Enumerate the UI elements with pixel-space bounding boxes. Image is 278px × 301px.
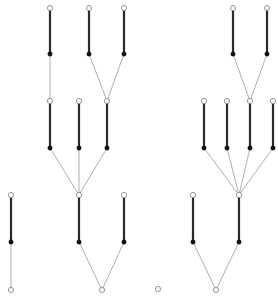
filled-node-rf1 [191,240,195,244]
open-node-c3 [104,98,109,103]
open-node-iso [155,286,160,291]
open-node-rc2 [224,98,229,103]
filled-node-f3 [122,240,126,244]
open-node-ra1 [230,5,235,10]
open-node-a3 [121,5,126,10]
thin-edge-b3-c3 [107,54,124,101]
open-node-re2 [236,192,241,197]
open-node-e2 [76,192,81,197]
open-node-rc1 [201,98,206,103]
thin-edge-rd1-re2 [204,148,239,195]
open-node-re1 [190,192,195,197]
open-node-rc4 [270,98,275,103]
thin-edge-rb2-rc3 [250,54,267,101]
open-node-a2 [86,5,91,10]
thin-edge-d1-e2 [50,148,79,195]
filled-node-d3 [105,146,109,150]
filled-node-b2 [87,52,91,56]
thin-edge-b2-c3 [89,54,107,101]
thin-edge-rf2-rg1 [216,242,239,290]
filled-node-rb2 [265,52,269,56]
open-node-g2 [99,287,104,292]
open-node-rc3 [247,98,252,103]
filled-node-b3 [122,52,126,56]
open-node-ra2 [264,5,269,10]
open-node-g1 [8,287,13,292]
filled-node-d2 [77,146,81,150]
filled-node-b1 [48,52,52,56]
filled-node-rd3 [248,146,252,150]
open-node-a1 [47,5,52,10]
thin-edge-rb1-rc3 [233,54,250,101]
filled-node-d1 [48,146,52,150]
thin-edge-d3-e2 [79,148,107,195]
open-node-e1 [8,192,13,197]
thin-edge-f2-g2 [79,242,102,290]
open-node-e3 [121,192,126,197]
thin-edge-rd2-re2 [227,148,239,195]
thin-edge-f3-g2 [102,242,124,290]
filled-node-rd4 [271,146,275,150]
thin-edge-rf1-rg1 [193,242,216,290]
filled-node-rf2 [237,240,241,244]
tree-diagram-canvas [0,0,278,301]
filled-node-rd2 [225,146,229,150]
open-node-c1 [47,98,52,103]
filled-node-rd1 [202,146,206,150]
open-node-rg1 [213,287,218,292]
open-node-c2 [76,98,81,103]
filled-node-rb1 [231,52,235,56]
filled-node-f2 [77,240,81,244]
filled-node-f1 [9,240,13,244]
